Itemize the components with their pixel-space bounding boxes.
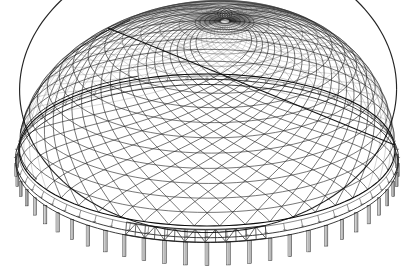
perimeter-column [307, 230, 311, 251]
perimeter-column [226, 242, 230, 265]
perimeter-column [288, 235, 292, 257]
perimeter-column [386, 190, 389, 206]
perimeter-column [340, 219, 343, 239]
perimeter-column [163, 241, 167, 264]
perimeter-column [44, 206, 47, 224]
dome-figure-root [0, 0, 414, 280]
perimeter-column [248, 241, 252, 264]
perimeter-column [56, 213, 59, 232]
perimeter-column [142, 238, 146, 260]
perimeter-column [33, 198, 36, 215]
perimeter-column [367, 206, 370, 224]
perimeter-column [355, 213, 358, 232]
perimeter-column [268, 238, 272, 260]
perimeter-column [205, 243, 209, 266]
perimeter-column [122, 235, 126, 257]
perimeter-column [86, 225, 89, 246]
perimeter-column [104, 230, 108, 251]
perimeter-column [324, 225, 327, 246]
perimeter-column [70, 219, 73, 239]
lattice-dome-drawing [0, 0, 414, 280]
perimeter-column [25, 190, 28, 206]
perimeter-column [184, 242, 188, 265]
perimeter-column [378, 198, 381, 215]
